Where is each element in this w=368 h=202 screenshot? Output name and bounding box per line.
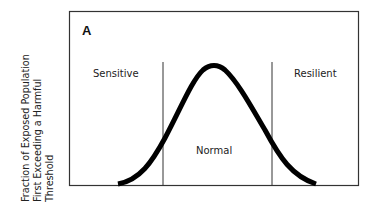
region-label-resilient: Resilient: [294, 68, 337, 79]
region-label-sensitive: Sensitive: [93, 68, 139, 79]
plot-frame: [70, 12, 359, 186]
bell-curve-series: [118, 66, 316, 185]
region-label-normal: Normal: [196, 145, 232, 156]
panel-label: A: [82, 23, 92, 38]
chart-canvas: A Sensitive Normal Resilient: [0, 0, 368, 202]
